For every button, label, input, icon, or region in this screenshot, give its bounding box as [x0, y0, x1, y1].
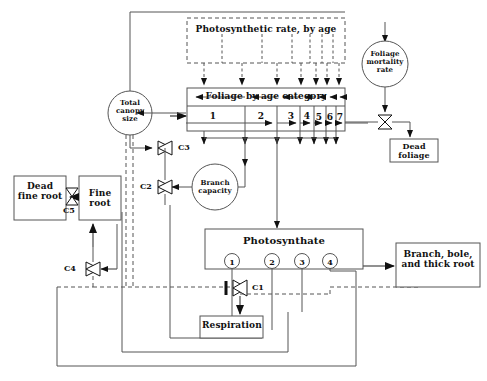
photosynthate-path-1: 1	[226, 257, 238, 267]
dead-foliage-label: Dead foliage	[392, 142, 436, 160]
diagram-canvas: Photosynthetic rate, by age Foliage by a…	[0, 0, 487, 381]
branch-capacity-label: Branch capacity	[195, 179, 235, 195]
photosynthate-path-4: 4	[324, 257, 336, 267]
respiration-label: Respiration	[202, 320, 261, 330]
fine-root-label: Fine root	[81, 188, 119, 208]
foliage-age-4: 4	[300, 111, 314, 121]
photosynthate-label: Photosynthate	[208, 235, 360, 246]
branch-bole-thick-root-label: Branch, bole, and thick root	[399, 249, 477, 269]
valve-label-c2: C2	[140, 181, 152, 191]
valve-label-c5: C5	[63, 205, 75, 215]
photosynthate-path-2: 2	[266, 257, 278, 267]
foliage-age-2: 2	[254, 111, 268, 121]
foliage-age-3: 3	[284, 111, 298, 121]
dead-fine-root-label: Dead fine root	[17, 181, 63, 201]
valve-label-c4: C4	[64, 263, 76, 273]
valve-label-c1: C1	[252, 282, 264, 292]
foliage-age-6: 6	[325, 112, 335, 122]
foliage-age-1: 1	[206, 111, 220, 121]
photosynthetic-rate-label: Photosynthetic rate, by age	[193, 24, 339, 34]
photosynthate-path-3: 3	[296, 257, 308, 267]
foliage-mortality-rate-label: Foliage mortality rate	[364, 50, 406, 73]
foliage-box-title: Foliage by age category	[190, 91, 342, 101]
total-canopy-size-label: Total canopy size	[110, 99, 150, 122]
valve-label-c3: C3	[178, 142, 190, 152]
foliage-age-5: 5	[313, 112, 325, 122]
foliage-age-7: 7	[335, 112, 345, 122]
